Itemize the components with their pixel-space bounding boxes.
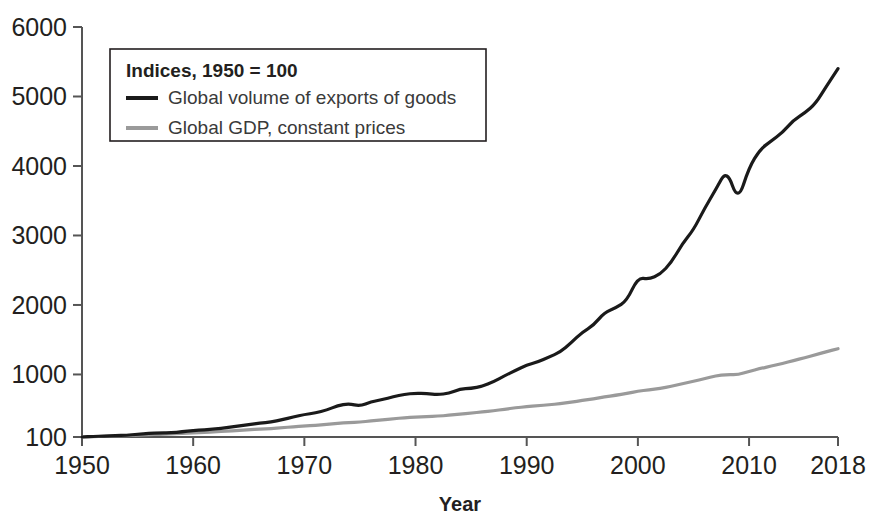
x-tick-label: 1970 <box>277 451 333 479</box>
y-tick-label: 4000 <box>11 152 67 180</box>
legend-label-2: Global GDP, constant prices <box>168 117 405 138</box>
legend-title: Indices, 1950 = 100 <box>126 60 298 81</box>
x-tick-label: 2010 <box>721 451 777 479</box>
x-tick-label: 1950 <box>54 451 110 479</box>
y-tick-label: 100 <box>25 423 67 451</box>
y-tick-label: 5000 <box>11 82 67 110</box>
legend-label-1: Global volume of exports of goods <box>168 87 456 108</box>
y-tick-label: 2000 <box>11 291 67 319</box>
line-chart-svg: 1001000200030004000500060001950196019701… <box>0 0 875 515</box>
x-tick-label: 1980 <box>388 451 444 479</box>
y-tick-label: 1000 <box>11 360 67 388</box>
series-line-global-gdp-constant-prices <box>82 349 838 437</box>
x-tick-label: 1990 <box>499 451 555 479</box>
x-tick-label: 2018 <box>810 451 866 479</box>
chart-container: 1001000200030004000500060001950196019701… <box>0 0 875 515</box>
x-axis-title: Year <box>439 493 481 515</box>
x-tick-label: 2000 <box>610 451 666 479</box>
y-tick-label: 3000 <box>11 221 67 249</box>
y-tick-label: 6000 <box>11 13 67 41</box>
x-tick-label: 1960 <box>165 451 221 479</box>
